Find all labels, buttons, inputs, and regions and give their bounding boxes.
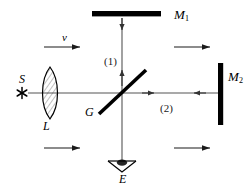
source-star <box>17 88 27 99</box>
label-mirror-1-text: M <box>174 7 185 22</box>
label-mirror-2-text: M <box>228 69 239 84</box>
label-velocity: v <box>62 32 67 43</box>
label-source: S <box>19 73 25 85</box>
label-mirror-1: M1 <box>174 8 189 21</box>
label-eye: E <box>119 173 126 185</box>
mirror-1-surface <box>92 11 161 16</box>
motion-arrows-group <box>44 47 210 148</box>
mirror-1 <box>92 11 161 16</box>
label-beam-splitter: G <box>85 106 94 118</box>
michelson-interferometer-figure: M1 M2 S L G E v (1) (2) <box>0 0 249 192</box>
lens-body <box>43 67 58 119</box>
interferometer-drawing <box>0 0 249 192</box>
label-mirror-2: M2 <box>228 70 243 83</box>
eye-pupil <box>117 160 127 166</box>
label-lens: L <box>43 120 50 132</box>
mirror-2-surface <box>218 63 223 125</box>
mirror-2 <box>218 63 223 125</box>
label-mirror-2-subscript: 2 <box>239 76 243 85</box>
lens-l <box>43 67 58 119</box>
eye-symbol <box>108 160 136 173</box>
label-mirror-1-subscript: 1 <box>185 14 189 23</box>
label-beam-two: (2) <box>160 103 173 114</box>
label-beam-one: (1) <box>104 56 117 67</box>
